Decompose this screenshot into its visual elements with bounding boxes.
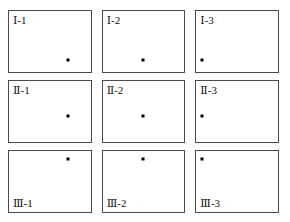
marker-dot [66, 58, 69, 61]
panel-label: Ⅲ-1 [13, 197, 33, 209]
panel-label: Ⅱ-3 [200, 84, 217, 96]
panel-3-3[interactable]: Ⅲ-3 [195, 150, 279, 213]
marker-dot [142, 58, 145, 61]
marker-dot [66, 115, 69, 118]
panel-2-1[interactable]: Ⅱ-1 [8, 80, 92, 143]
marker-dot [142, 157, 145, 160]
marker-dot [142, 115, 145, 118]
marker-dot [66, 157, 69, 160]
marker-dot [201, 115, 204, 118]
marker-dot [201, 157, 204, 160]
panel-grid: Ⅰ-1Ⅰ-2Ⅰ-3Ⅱ-1Ⅱ-2Ⅱ-3Ⅲ-1Ⅲ-2Ⅲ-3 [8, 10, 279, 213]
figure-canvas: Ⅰ-1Ⅰ-2Ⅰ-3Ⅱ-1Ⅱ-2Ⅱ-3Ⅲ-1Ⅲ-2Ⅲ-3 [0, 0, 290, 222]
marker-dot [201, 58, 204, 61]
panel-label: Ⅰ-2 [107, 14, 121, 26]
panel-label: Ⅱ-2 [107, 84, 124, 96]
panel-2-2[interactable]: Ⅱ-2 [102, 80, 186, 143]
panel-3-1[interactable]: Ⅲ-1 [8, 150, 92, 213]
panel-label: Ⅲ-2 [107, 197, 127, 209]
panel-label: Ⅲ-3 [200, 197, 220, 209]
panel-1-3[interactable]: Ⅰ-3 [195, 10, 279, 73]
panel-1-2[interactable]: Ⅰ-2 [102, 10, 186, 73]
panel-3-2[interactable]: Ⅲ-2 [102, 150, 186, 213]
panel-1-1[interactable]: Ⅰ-1 [8, 10, 92, 73]
panel-label: Ⅰ-3 [200, 14, 214, 26]
panel-2-3[interactable]: Ⅱ-3 [195, 80, 279, 143]
panel-label: Ⅰ-1 [13, 14, 27, 26]
panel-label: Ⅱ-1 [13, 84, 30, 96]
